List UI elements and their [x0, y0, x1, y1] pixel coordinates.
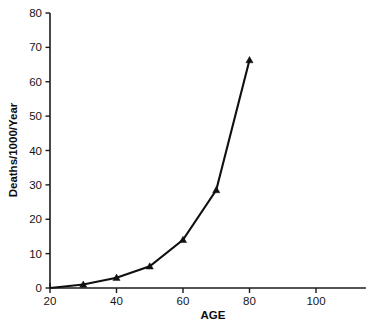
x-axis-tick-labels: 20406080100	[44, 295, 326, 307]
y-axis-tick-label: 40	[29, 145, 42, 157]
y-axis-title: Deaths/1000/Year	[7, 102, 19, 197]
x-axis-title: AGE	[201, 309, 226, 321]
x-axis-tick-label: 40	[110, 295, 123, 307]
mortality-age-chart: 01020304050607080 20406080100 AGE Deaths…	[0, 0, 392, 325]
y-axis-tick-label: 20	[29, 213, 42, 225]
y-axis-tick-label: 0	[36, 282, 42, 294]
y-axis-tick-label: 70	[29, 41, 42, 53]
y-axis-tick-label: 50	[29, 110, 42, 122]
x-axis-tick-label: 20	[44, 295, 57, 307]
y-axis-tick-labels: 01020304050607080	[29, 7, 42, 294]
data-point-marker	[213, 186, 220, 192]
chart-plot-area: 01020304050607080 20406080100 AGE Deaths…	[0, 0, 392, 325]
x-axis-tick-label: 80	[243, 295, 256, 307]
x-axis-tick-label: 60	[177, 295, 190, 307]
data-point-marker	[246, 56, 253, 62]
x-axis-tick-label: 100	[306, 295, 325, 307]
data-series-line	[50, 60, 250, 288]
y-axis-tick-label: 30	[29, 179, 42, 191]
y-axis-tick-label: 80	[29, 7, 42, 19]
y-axis-tick-label: 10	[29, 248, 42, 260]
y-axis-tick-label: 60	[29, 76, 42, 88]
